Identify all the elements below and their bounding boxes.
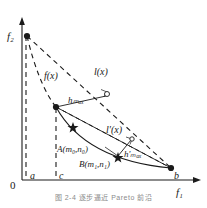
tick-label-c: c [59,170,64,181]
tick-label-b: b [174,170,179,181]
distance-label-h-max: hₘₐₓ [68,95,84,105]
point-label-B: B(m₁,n₁) [79,159,110,169]
marker-group [24,33,174,171]
marker-star-upper [68,122,79,133]
curve-label-l-prime: l′(x) [106,124,123,136]
point-label-A: A(m₀,n₀) [56,144,88,154]
chord-l-prime [56,107,171,168]
y-axis-label: f₂ [7,30,14,42]
marker-top-point [24,33,30,39]
distance-label-h-max-prime: h′ₘₐₓ [124,149,142,159]
x-axis-arrow [193,177,201,183]
figure-container: f₂ f₁ 0 a c b f(x) l(x) l′(x) A(m₀,n₀) B… [0,0,207,208]
tick-label-a: a [30,170,35,181]
guide-lines [26,36,56,176]
curve-label-l: l(x) [94,66,109,78]
curve-label-f: f(x) [44,70,59,82]
y-axis-arrow [19,17,25,25]
origin-label: 0 [10,179,16,191]
marker-h-max-foot [105,92,110,97]
marker-point-A [53,104,59,110]
pareto-front-diagram: f₂ f₁ 0 a c b f(x) l(x) l′(x) A(m₀,n₀) B… [0,0,207,208]
marker-h-max-prime-foot [130,137,134,141]
figure-caption: 图 2-4 逐步逼近 Pareto 前沿 [0,192,207,202]
axis-group [19,17,201,183]
